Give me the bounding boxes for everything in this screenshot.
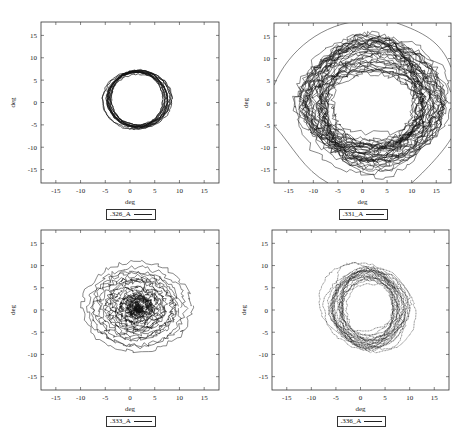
panel-336: -15-10-5051015-15-10-5051015degdeg.336_A [233,208,471,438]
x-tick-label: 10 [176,394,184,402]
x-tick-label: 0 [128,394,132,402]
y-tick-label: 10 [261,262,269,270]
y-tick-label: -15 [259,373,269,381]
plot-trace [81,260,194,352]
y-tick-label: 5 [265,284,269,292]
y-tick-label: 15 [261,240,269,248]
y-tick-label: -15 [261,166,271,174]
y-tick-label: 10 [263,55,271,63]
x-tick-label: 0 [361,187,365,195]
y-tick-label: -5 [31,329,37,337]
x-tick-label: -10 [309,187,319,195]
x-tick-label: -5 [335,187,341,195]
x-tick-label: 10 [406,394,414,402]
y-tick-label: -15 [28,373,38,381]
x-tick-label: 10 [176,187,184,195]
plot-trace [319,262,416,352]
y-axis-label: deg [240,304,248,315]
plot-trace [274,21,454,183]
y-tick-label: -10 [259,351,269,359]
y-tick-label: 0 [34,99,38,107]
x-tick-label: -15 [51,187,61,195]
y-tick-label: 0 [267,100,271,108]
y-tick-label: 5 [34,284,38,292]
y-tick-label: 10 [30,54,38,62]
legend-line-swatch [134,421,152,422]
y-tick-label: -5 [262,329,268,337]
y-tick-label: 10 [30,262,38,270]
y-tick-label: -15 [28,166,38,174]
legend: .333_A [106,416,156,427]
plot-frame [272,230,449,390]
x-tick-label: -10 [76,394,86,402]
legend-line-swatch [364,421,382,422]
x-tick-label: 15 [431,394,439,402]
x-tick-label: 0 [359,394,363,402]
x-tick-label: -10 [76,187,86,195]
y-tick-label: 5 [267,77,271,85]
x-axis-label: deg [355,405,366,413]
plot-trace [102,69,173,129]
y-tick-label: -10 [28,144,38,152]
x-axis-label: deg [125,405,136,413]
x-tick-label: -5 [102,187,108,195]
x-tick-label: 15 [433,187,441,195]
panel-331: -15-10-5051015-15-10-5051015degdeg.331_A [235,0,471,230]
y-axis-label: deg [9,97,17,108]
x-tick-label: 10 [408,187,416,195]
x-tick-label: 5 [385,187,389,195]
legend-label: .336_A [341,417,362,425]
y-tick-label: -5 [31,121,37,129]
x-tick-label: -15 [51,394,61,402]
x-axis-label: deg [357,198,368,206]
y-tick-label: 15 [263,33,271,41]
plot-frame [41,22,219,183]
legend: .336_A [337,416,387,427]
panel-333: -15-10-5051015-15-10-5051015degdeg.333_A [0,208,240,438]
y-tick-label: -10 [28,351,38,359]
x-tick-label: -15 [284,187,294,195]
y-tick-label: 15 [30,32,38,40]
legend-label: .333_A [110,417,131,425]
x-tick-label: -5 [102,394,108,402]
x-tick-label: 5 [153,187,157,195]
y-tick-label: -10 [261,144,271,152]
y-tick-label: 0 [34,307,38,315]
x-tick-label: -10 [307,394,317,402]
y-tick-label: 15 [30,240,38,248]
x-tick-label: 0 [128,187,132,195]
x-tick-label: -15 [282,394,292,402]
x-axis-label: deg [125,198,136,206]
x-tick-label: 5 [383,394,387,402]
x-tick-label: 15 [201,187,209,195]
panel-326: -15-10-5051015-15-10-5051015degdeg.326_A [0,0,240,230]
y-tick-label: 5 [34,77,38,85]
x-tick-label: 15 [201,394,209,402]
y-tick-label: -5 [264,122,270,130]
x-tick-label: -5 [333,394,339,402]
x-tick-label: 5 [153,394,157,402]
y-axis-label: deg [9,304,17,315]
y-axis-label: deg [242,97,250,108]
y-tick-label: 0 [265,307,269,315]
